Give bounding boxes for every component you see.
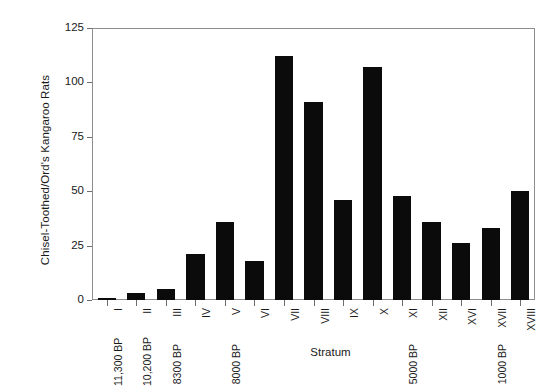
x-tick-label: IV: [200, 308, 212, 344]
bar: [216, 222, 234, 300]
x-tick-label: XI: [407, 308, 419, 344]
bar: [334, 200, 352, 300]
x-tick-mark: [343, 300, 344, 306]
y-tick-label: 100: [44, 76, 84, 88]
x-tick-mark: [195, 300, 196, 306]
x-axis-title-text: Stratum: [310, 346, 350, 358]
x-tick-label: III: [171, 308, 183, 344]
y-axis-title: Chisel-Toothed/Ord's Kangaroo Rats: [39, 30, 51, 310]
x-tick-mark: [402, 300, 403, 306]
x-tick-mark: [136, 300, 137, 306]
x-tick-mark: [520, 300, 521, 306]
x-tick-mark: [373, 300, 374, 306]
x-tick-mark: [432, 300, 433, 306]
bar: [275, 56, 293, 300]
bar: [393, 196, 411, 300]
y-tick-label: 50: [44, 185, 84, 197]
y-tick-label: 125: [44, 22, 84, 34]
bar: [422, 222, 440, 300]
x-tick-mark: [461, 300, 462, 306]
bar: [482, 228, 500, 300]
x-tick-mark: [166, 300, 167, 306]
bar: [186, 254, 204, 300]
bar: [157, 289, 175, 300]
x-tick-mark: [225, 300, 226, 306]
x-tick-label: XVIII: [525, 308, 537, 344]
bars-layer: [92, 28, 535, 300]
x-tick-label: VII: [289, 308, 301, 344]
x-tick-label: XVII: [496, 308, 508, 344]
x-tick-mark: [491, 300, 492, 306]
x-tick-label: XII: [437, 308, 449, 344]
x-tick-mark: [107, 300, 108, 306]
x-tick-label: VI: [259, 308, 271, 344]
x-tick-mark: [254, 300, 255, 306]
x-tick-mark: [314, 300, 315, 306]
x-tick-label: V: [230, 308, 242, 344]
y-tick-mark: [87, 300, 92, 301]
x-tick-label: VIII: [319, 308, 331, 344]
y-tick-label: 75: [44, 131, 84, 143]
y-tick-label: 0: [44, 294, 84, 306]
bar: [452, 243, 470, 300]
x-tick-label: X: [378, 308, 390, 344]
bar: [511, 191, 529, 300]
x-tick-label: IX: [348, 308, 360, 344]
bar: [304, 102, 322, 300]
x-axis-title: Stratum: [0, 346, 557, 358]
bar-chart: Chisel-Toothed/Ord's Kangaroo Rats 02550…: [0, 0, 557, 387]
bar: [363, 67, 381, 300]
x-tick-mark: [284, 300, 285, 306]
x-tick-label: XVI: [466, 308, 478, 344]
y-tick-label: 25: [44, 240, 84, 252]
bar: [245, 261, 263, 300]
